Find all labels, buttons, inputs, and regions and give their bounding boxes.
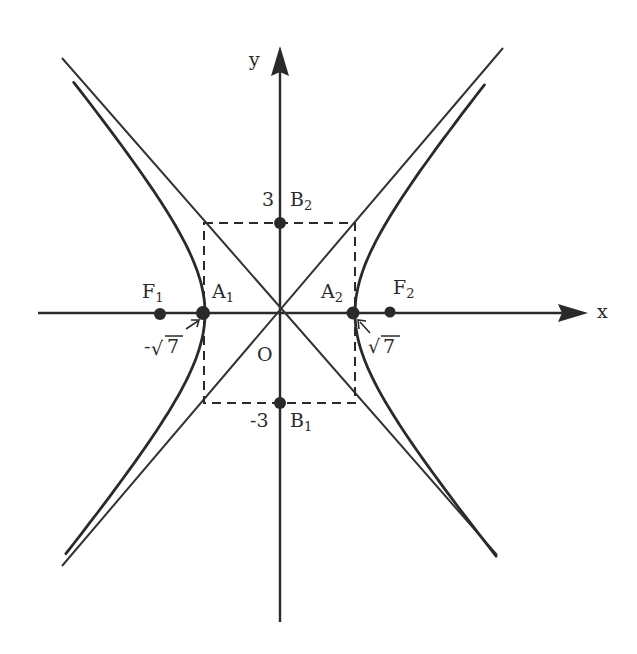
focus-f2-point: [385, 307, 396, 318]
x-axis-label: x: [597, 300, 608, 322]
x-axis-arrow-icon: [558, 304, 588, 322]
pointer-right-line: [360, 322, 370, 333]
hyperbola-diagram: y x O F1 A1 A2 F2 B2 B1 3 -3 - √ 7: [0, 0, 637, 654]
svg-text:7: 7: [167, 335, 179, 357]
svg-text:√: √: [151, 337, 164, 359]
a2-label: A2: [320, 280, 343, 305]
focus-f1-point: [154, 308, 166, 320]
y-tick-neg3-label: -3: [250, 409, 269, 431]
asymptotes: [62, 48, 503, 566]
tick-pointers: [186, 320, 370, 333]
f2-label: F2: [393, 276, 414, 301]
f1-label: F1: [142, 280, 163, 305]
hyperbola-left-branch: [66, 82, 205, 553]
asymptote-positive-slope: [62, 48, 503, 566]
b2-label: B2: [290, 188, 312, 213]
svg-text:√: √: [368, 335, 381, 357]
x-tick-sqrt7-label: √ 7: [368, 335, 400, 357]
axes: [38, 46, 588, 622]
y-tick-3-label: 3: [262, 188, 274, 210]
origin-label: O: [257, 343, 273, 365]
vertex-a2-point: [347, 307, 360, 320]
co-vertex-b1-point: [274, 397, 286, 409]
hyperbola-right-branch: [355, 85, 496, 556]
x-tick-neg-sqrt7-label: - √ 7: [144, 335, 183, 359]
svg-text:7: 7: [383, 335, 395, 357]
pointer-left-line: [186, 321, 198, 329]
y-axis-label: y: [248, 48, 260, 70]
vertex-a1-point: [196, 306, 210, 320]
a1-label: A1: [211, 280, 234, 305]
svg-text:-: -: [144, 335, 150, 357]
y-axis-arrow-icon: [271, 46, 289, 76]
b1-label: B1: [290, 409, 312, 434]
co-vertex-b2-point: [274, 217, 286, 229]
